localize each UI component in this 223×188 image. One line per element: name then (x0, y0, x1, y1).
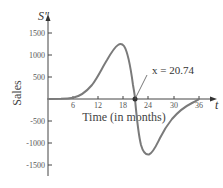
y-tick-label: 1000 (29, 51, 45, 60)
y-tick-label: -1000 (26, 139, 45, 148)
x-tick-label: 36 (195, 101, 203, 110)
y-tick-labels: 1500 1000 500 -500 -1000 -1500 (26, 29, 45, 170)
chart-canvas: 1500 1000 500 -500 -1000 -1500 6 12 18 2… (0, 0, 223, 188)
y-axis-title: Sales (10, 80, 24, 106)
y-tick-label: -1500 (26, 161, 45, 170)
x-axis-title: Time (in months) (82, 110, 166, 124)
x-tick-label: 6 (71, 101, 75, 110)
y-tick-label: 1500 (29, 29, 45, 38)
x-tick-label: 12 (94, 101, 102, 110)
y-tick-label: -500 (30, 117, 45, 126)
y-tick-label: 500 (33, 73, 45, 82)
x-tick-label: 30 (170, 101, 178, 110)
x-variable-label: t (215, 98, 219, 112)
x-tick-label: 18 (119, 101, 127, 110)
annotation-label: x = 20.74 (152, 64, 194, 76)
y-variable-label: S" (38, 9, 50, 23)
annotation-leader-line (135, 75, 147, 99)
x-tick-label: 24 (144, 101, 152, 110)
